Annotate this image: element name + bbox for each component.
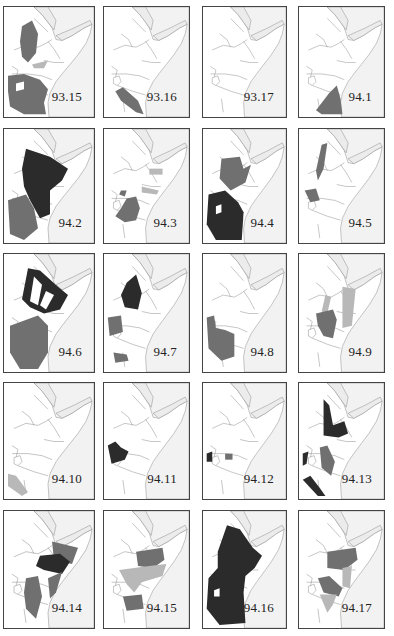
map-panel-94-12: 94.12 bbox=[202, 382, 287, 500]
map-label: 94.1 bbox=[348, 89, 372, 105]
map-panel-94-8: 94.8 bbox=[202, 253, 287, 373]
map-label: 94.12 bbox=[244, 471, 274, 487]
map-label: 94.9 bbox=[348, 344, 372, 360]
map-label: 94.16 bbox=[244, 600, 274, 616]
map-label: 94.15 bbox=[147, 600, 177, 616]
map-label: 93.17 bbox=[244, 89, 274, 105]
map-label: 94.4 bbox=[250, 215, 274, 231]
map-label: 94.17 bbox=[342, 600, 372, 616]
map-panel-94-3: 94.3 bbox=[103, 128, 190, 244]
map-label: 94.5 bbox=[348, 215, 372, 231]
map-panel-94-9: 94.9 bbox=[298, 253, 385, 373]
map-label: 94.2 bbox=[58, 215, 82, 231]
map-label: 93.16 bbox=[147, 89, 177, 105]
map-panel-94-1: 94.1 bbox=[298, 6, 385, 118]
map-label: 93.15 bbox=[52, 89, 82, 105]
map-panel-94-15: 94.15 bbox=[103, 510, 190, 629]
map-panel-93-16: 93.16 bbox=[103, 6, 190, 118]
map-panel-94-13: 94.13 bbox=[298, 382, 385, 500]
map-panel-93-17: 93.17 bbox=[202, 6, 287, 118]
map-label: 94.10 bbox=[52, 471, 82, 487]
map-label: 94.6 bbox=[58, 344, 82, 360]
map-label: 94.3 bbox=[153, 215, 177, 231]
map-panel-94-16: 94.16 bbox=[202, 510, 287, 629]
map-panel-94-6: 94.6 bbox=[3, 253, 95, 373]
map-label: 94.8 bbox=[250, 344, 274, 360]
map-panel-94-4: 94.4 bbox=[202, 128, 287, 244]
map-label: 94.14 bbox=[52, 600, 82, 616]
map-panel-94-7: 94.7 bbox=[103, 253, 190, 373]
map-panel-93-15: 93.15 bbox=[3, 6, 95, 118]
map-label: 94.7 bbox=[153, 344, 177, 360]
map-label: 94.13 bbox=[342, 471, 372, 487]
map-panel-94-2: 94.2 bbox=[3, 128, 95, 244]
map-panel-94-17: 94.17 bbox=[298, 510, 385, 629]
map-panel-94-10: 94.10 bbox=[3, 382, 95, 500]
map-panel-94-5: 94.5 bbox=[298, 128, 385, 244]
map-panel-94-11: 94.11 bbox=[103, 382, 190, 500]
map-panel-94-14: 94.14 bbox=[3, 510, 95, 629]
map-label: 94.11 bbox=[147, 471, 177, 487]
